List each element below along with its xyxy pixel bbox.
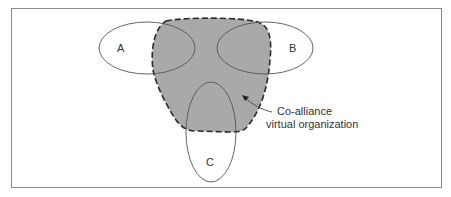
label-c: C bbox=[206, 156, 214, 168]
co-alliance-region bbox=[152, 18, 270, 132]
venn-diagram: A B C Co-alliance virtual organization bbox=[0, 0, 451, 197]
label-a: A bbox=[117, 42, 125, 54]
region-label-line2: virtual organization bbox=[266, 118, 358, 130]
region-label-line1: Co-alliance bbox=[277, 105, 332, 117]
label-b: B bbox=[289, 42, 296, 54]
